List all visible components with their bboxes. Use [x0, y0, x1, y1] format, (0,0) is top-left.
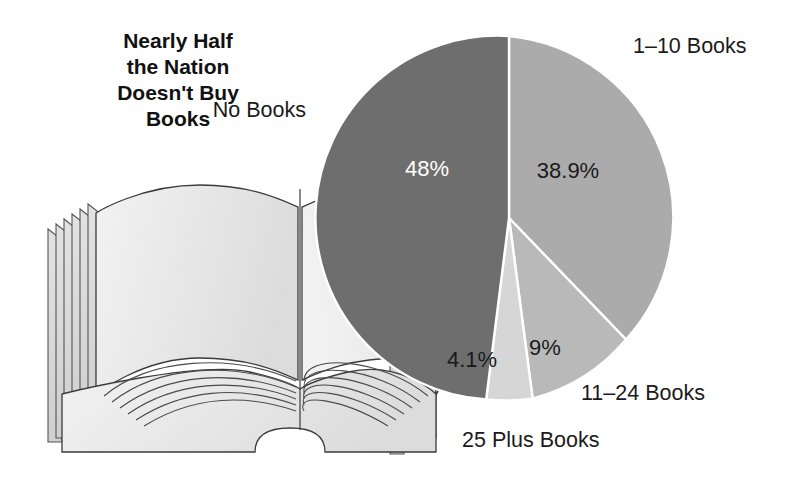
pie-label-no-books: No Books	[213, 98, 306, 122]
pie-label-11-24-books: 11–24 Books	[581, 381, 705, 405]
pie-label-1-10-books: 1–10 Books	[633, 34, 747, 58]
pie-value-no-books: 48%	[405, 156, 449, 181]
pie-value-11-24-books: 9%	[529, 335, 561, 360]
pie-label-25-plus-books: 25 Plus Books	[462, 428, 599, 452]
title-line-4: Books	[146, 107, 210, 130]
title-line-2: the Nation	[127, 55, 230, 78]
title-line-1: Nearly Half	[123, 29, 234, 52]
figure-canvas: Nearly Half the Nation Doesn't Buy Books…	[0, 0, 796, 480]
pie-value-1-10-books: 38.9%	[537, 158, 599, 183]
pie-chart	[315, 36, 673, 401]
pie-value-25-plus-books: 4.1%	[447, 347, 497, 372]
